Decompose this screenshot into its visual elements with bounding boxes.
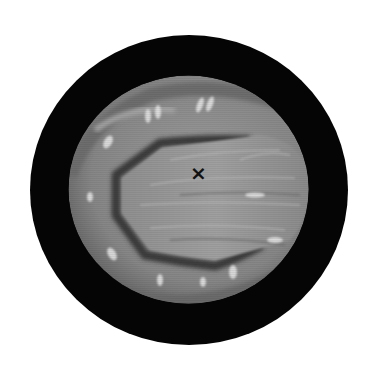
- endoscopic-view-figure: ×: [0, 0, 373, 370]
- x-marker: ×: [190, 163, 207, 183]
- figure-canvas: [0, 0, 373, 370]
